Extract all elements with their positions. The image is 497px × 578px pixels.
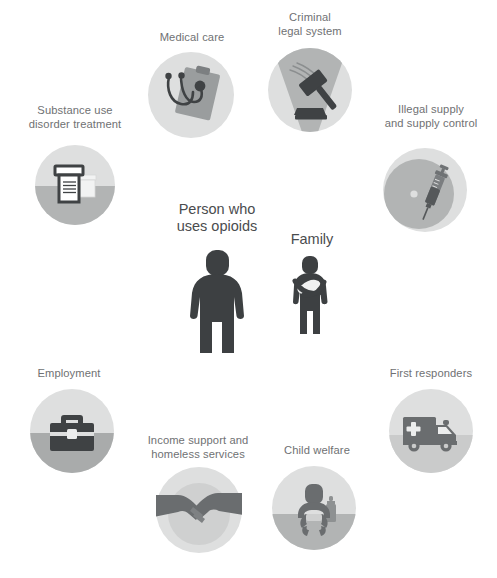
opioid-ecosystem-diagram: Substance use disorder treatment (0, 0, 497, 578)
badge-employment (30, 389, 114, 473)
baby-bottle-icon (272, 466, 356, 550)
adult-person-figure (179, 250, 255, 353)
label-family: Family (270, 231, 354, 248)
label-employment: Employment (8, 367, 130, 381)
syringe-icon (383, 148, 467, 232)
label-person-who-uses-opioids: Person who uses opioids (152, 201, 282, 235)
figure-family (288, 256, 332, 334)
gavel-icon (268, 48, 352, 132)
label-substance-use-disorder-treatment: Substance use disorder treatment (4, 104, 146, 131)
badge-substance-use-disorder-treatment (35, 145, 115, 225)
figure-person-who-uses-opioids (179, 250, 255, 353)
badge-medical-care (148, 52, 234, 138)
label-criminal-legal-system: Criminal legal system (248, 11, 372, 38)
badge-first-responders (389, 389, 473, 473)
briefcase-icon (30, 389, 114, 473)
badge-child-welfare (272, 466, 356, 550)
handshake-icon (156, 467, 242, 553)
parent-holding-baby-figure (288, 256, 332, 334)
ambulance-icon (389, 389, 473, 473)
badge-income-support-and-homeless-services (156, 467, 242, 553)
label-child-welfare: Child welfare (218, 444, 416, 458)
stethoscope-clipboard-icon (148, 52, 234, 138)
label-illegal-supply-and-supply-control: Illegal supply and supply control (365, 103, 497, 130)
pill-bottle-icon (35, 145, 115, 225)
label-medical-care: Medical care (122, 31, 262, 45)
badge-criminal-legal-system (268, 48, 352, 132)
badge-illegal-supply-and-supply-control (383, 148, 467, 232)
label-first-responders: First responders (367, 367, 495, 381)
